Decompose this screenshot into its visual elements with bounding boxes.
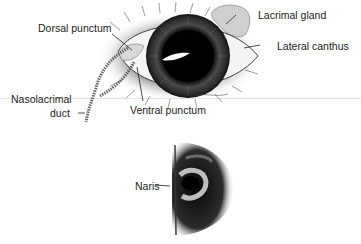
illustration — [0, 0, 361, 244]
label-lateral-canthus: Lateral canthus — [277, 40, 349, 52]
label-duct: duct — [50, 107, 70, 119]
label-ventral-punctum: Ventral punctum — [130, 104, 206, 116]
eye-illustration — [98, 2, 262, 108]
label-naris: Naris — [135, 180, 160, 192]
nose-illustration — [172, 142, 234, 236]
anatomy-figure: Dorsal punctum Lacrimal gland Lateral ca… — [0, 0, 361, 244]
label-nasolacrimal: Nasolacrimal — [11, 93, 72, 105]
label-lacrimal-gland: Lacrimal gland — [258, 9, 326, 21]
label-dorsal-punctum: Dorsal punctum — [38, 22, 112, 34]
